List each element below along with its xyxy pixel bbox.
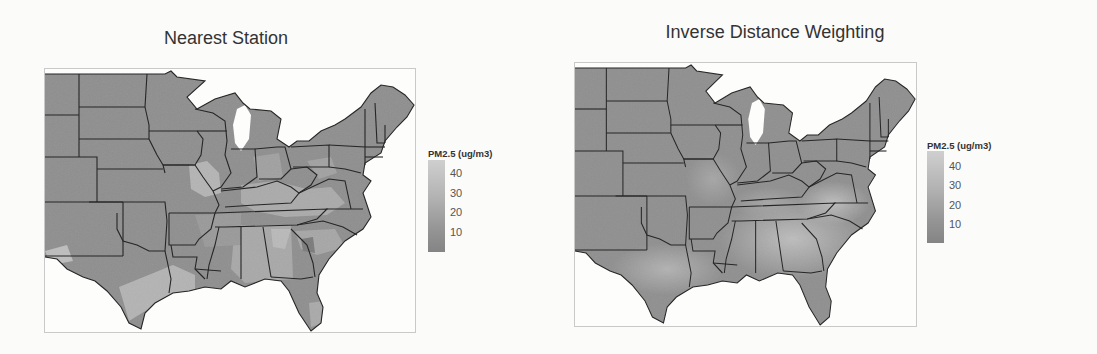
legend-tick-10: 10 — [450, 226, 462, 238]
us-map-nearest-station — [45, 69, 415, 332]
chart-title: Inverse Distance Weighting — [666, 22, 885, 43]
legend-colorbar — [428, 160, 445, 252]
map-frame — [44, 68, 416, 333]
us-map-idw — [575, 63, 916, 326]
chart-title: Nearest Station — [164, 28, 288, 49]
legend-title: PM2.5 (ug/m3) — [927, 140, 991, 151]
legend-tick-30: 30 — [450, 187, 462, 199]
legend-colorbar — [927, 151, 944, 243]
map-frame — [574, 62, 917, 327]
legend-tick-10: 10 — [949, 218, 961, 230]
panel-inverse-distance-weighting: Inverse Distance Weighting — [549, 0, 1097, 354]
legend-title: PM2.5 (ug/m3) — [428, 148, 492, 159]
legend-tick-40: 40 — [949, 160, 961, 172]
legend-tick-20: 20 — [949, 199, 961, 211]
legend-tick-30: 30 — [949, 179, 961, 191]
legend-tick-40: 40 — [450, 167, 462, 179]
panel-nearest-station: Nearest Station — [0, 0, 549, 354]
legend-tick-20: 20 — [450, 206, 462, 218]
